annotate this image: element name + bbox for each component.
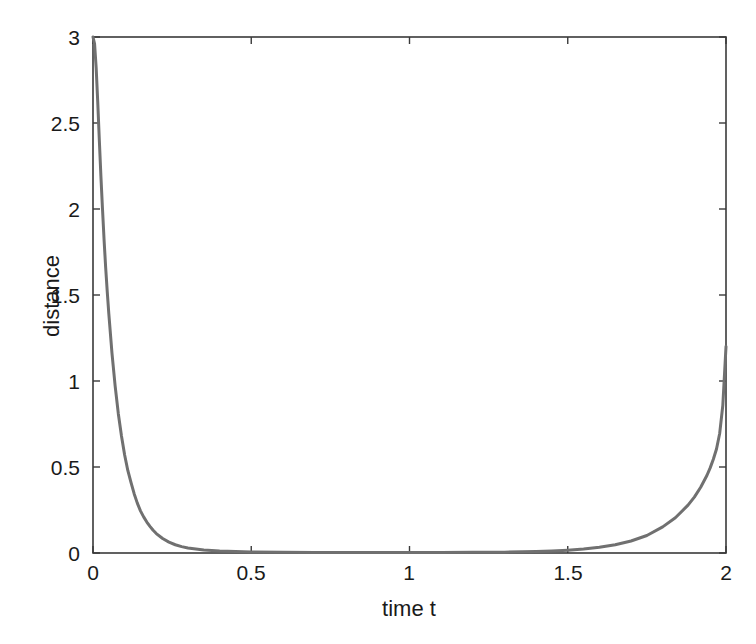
xtick-label-1.5: 1.5 [553, 562, 582, 583]
xtick-label-1: 1 [403, 562, 415, 583]
ytick-label-3: 3 [25, 27, 80, 48]
xtick-label-0: 0 [87, 562, 99, 583]
y-axis-title: distance [41, 211, 63, 381]
x-axis-title: time t [382, 598, 436, 620]
ytick-label-0: 0 [25, 543, 80, 564]
ytick-label-0.5: 0.5 [25, 457, 80, 478]
xtick-label-0.5: 0.5 [236, 562, 265, 583]
ytick-label-2.5: 2.5 [25, 113, 80, 134]
tick-marks [93, 37, 726, 553]
xtick-label-2: 2 [720, 562, 732, 583]
axes-frame [93, 37, 726, 553]
data-series-line [93, 37, 726, 552]
plot-area [0, 0, 756, 644]
figure-canvas: 0 0.5 1 1.5 2 2.5 3 0 0.5 1 1.5 2 time t… [0, 0, 756, 644]
